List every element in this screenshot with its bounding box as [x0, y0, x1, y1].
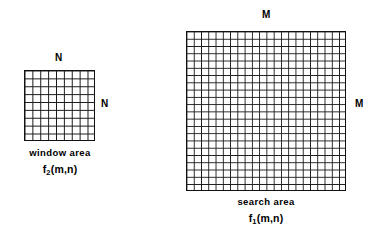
window-area-function-subscript: 2: [46, 168, 50, 177]
window-area-grid: [24, 70, 95, 141]
window-area-function-label: f2(m,n): [9, 164, 111, 175]
search-area-right-dimension-label: M: [355, 99, 364, 109]
search-area-function-subscript: 1: [252, 217, 256, 226]
block-matching-figure: N N window area f2(m,n) M M search area …: [0, 0, 380, 239]
window-area-top-dimension-label: N: [55, 53, 62, 63]
search-area-grid: [186, 31, 346, 191]
search-area-caption: search area: [216, 197, 316, 207]
window-area-right-dimension-label: N: [101, 99, 108, 109]
search-area-function-args: (m,n): [257, 212, 284, 224]
search-area-function-label: f1(m,n): [216, 213, 316, 224]
window-area-caption: window area: [9, 148, 111, 158]
search-area-top-dimension-label: M: [262, 10, 271, 20]
window-area-function-args: (m,n): [51, 163, 78, 175]
